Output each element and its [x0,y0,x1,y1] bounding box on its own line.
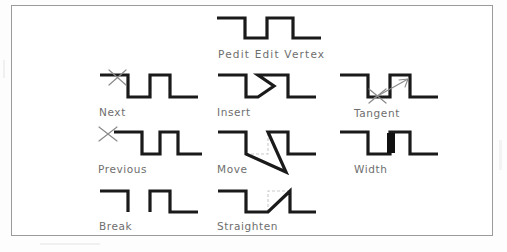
break-waveform-icon [98,186,208,218]
title-text: Pedit Edit Vertex [218,48,325,60]
insert-label: Insert [217,106,251,118]
option-break: Break [98,186,223,238]
width-label: Width [354,163,388,175]
next-label: Next [99,106,126,118]
option-tangent: Tangent [338,69,468,124]
option-next: Next [98,69,223,124]
scan-artifact [40,243,100,245]
width-waveform-icon [338,126,448,160]
diagram-sheet: Pedit Edit Vertex Next Insert [0,0,507,252]
break-label: Break [99,220,132,232]
option-width: Width [338,126,468,181]
straighten-label: Straighten [217,220,278,232]
insert-waveform-icon [216,69,326,103]
option-straighten: Straighten [216,186,346,238]
previous-label: Previous [98,163,147,175]
next-waveform-icon [98,69,208,103]
option-insert: Insert [216,69,341,124]
option-move: Move [216,126,346,184]
previous-waveform-icon [98,126,208,160]
scan-artifact [499,140,502,170]
tangent-label: Tangent [354,107,400,119]
straighten-waveform-icon [216,186,326,218]
option-previous: Previous [98,126,223,181]
title-block: Pedit Edit Vertex [215,13,335,65]
title-waveform-icon [215,13,325,43]
diagram-frame: Pedit Edit Vertex Next Insert [11,5,493,236]
scan-artifact [3,60,5,78]
move-label: Move [217,163,248,175]
tangent-waveform-icon [338,69,448,105]
